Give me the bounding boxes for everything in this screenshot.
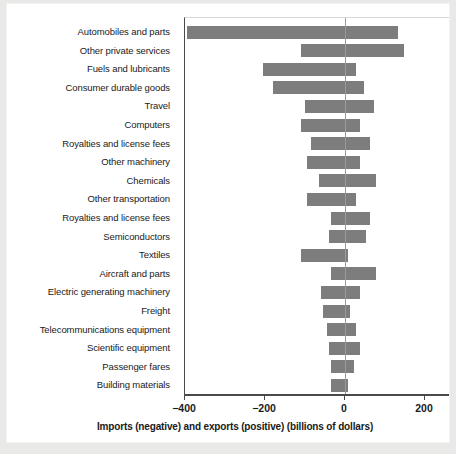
bar-exports (346, 119, 360, 132)
bar-exports (346, 212, 370, 225)
bar-imports (331, 360, 345, 373)
x-axis-tick-label: 0 (341, 402, 347, 414)
bar-exports (346, 44, 404, 57)
x-axis-tick-label: 200 (415, 402, 433, 414)
x-axis-line (184, 394, 449, 396)
bar-exports (346, 137, 370, 150)
category-label: Other transportation (7, 193, 170, 204)
bar-exports (346, 174, 376, 187)
category-label: Passenger fares (7, 361, 170, 372)
category-label: Textiles (7, 249, 170, 260)
bar-imports (301, 44, 345, 57)
bar-imports (263, 63, 345, 76)
bar-imports (319, 174, 345, 187)
bar-imports (331, 212, 345, 225)
category-label: Semiconductors (7, 231, 170, 242)
category-label: Automobiles and parts (7, 26, 170, 37)
bar-imports (307, 193, 345, 206)
bar-exports (346, 379, 348, 392)
bar-imports (331, 267, 345, 280)
bar-imports (301, 119, 345, 132)
category-label: Computers (7, 119, 170, 130)
bar-imports (331, 379, 345, 392)
bar-exports (346, 323, 356, 336)
bar-imports (327, 323, 345, 336)
category-label: Electric generating machinery (7, 286, 170, 297)
category-label: Other machinery (7, 156, 170, 167)
category-label: Building materials (7, 379, 170, 390)
bar-exports (346, 193, 356, 206)
chart-figure: Automobiles and partsOther private servi… (7, 4, 449, 442)
bar-imports (329, 342, 345, 355)
x-axis-title: Imports (negative) and exports (positive… (7, 421, 456, 432)
x-axis-tick (344, 394, 345, 400)
x-axis-tick (424, 394, 425, 400)
bar-exports (346, 286, 360, 299)
bar-exports (346, 230, 366, 243)
category-label: Scientific equipment (7, 342, 170, 353)
category-label: Consumer durable goods (7, 82, 170, 93)
bar-imports (323, 305, 345, 318)
category-label: Aircraft and parts (7, 268, 170, 279)
plot-area (184, 17, 449, 394)
x-axis-tick (184, 394, 185, 400)
bar-imports (301, 249, 345, 262)
x-axis-tick-label: −400 (172, 402, 196, 414)
bar-exports (346, 267, 376, 280)
category-label: Freight (7, 305, 170, 316)
bar-exports (346, 26, 398, 39)
bar-imports (307, 156, 345, 169)
bar-imports (273, 81, 345, 94)
category-label: Travel (7, 100, 170, 111)
bar-exports (346, 342, 360, 355)
bar-imports (311, 137, 345, 150)
bar-exports (346, 63, 356, 76)
category-axis-labels: Automobiles and partsOther private servi… (7, 13, 170, 393)
x-axis-tick (264, 394, 265, 400)
category-label: Royalties and license fees (7, 138, 170, 149)
x-axis-tick-label: −200 (252, 402, 276, 414)
bar-imports (305, 100, 345, 113)
category-label: Royalties and license fees (7, 212, 170, 223)
bar-exports (346, 360, 354, 373)
bar-exports (346, 305, 350, 318)
bar-imports (321, 286, 345, 299)
category-label: Chemicals (7, 175, 170, 186)
category-label: Fuels and lubricants (7, 63, 170, 74)
bar-exports (346, 100, 374, 113)
bar-exports (346, 249, 348, 262)
bar-exports (346, 156, 360, 169)
category-label: Other private services (7, 45, 170, 56)
bar-imports (329, 230, 345, 243)
bar-imports (187, 26, 345, 39)
category-label: Telecommunications equipment (7, 324, 170, 335)
bar-exports (346, 81, 364, 94)
